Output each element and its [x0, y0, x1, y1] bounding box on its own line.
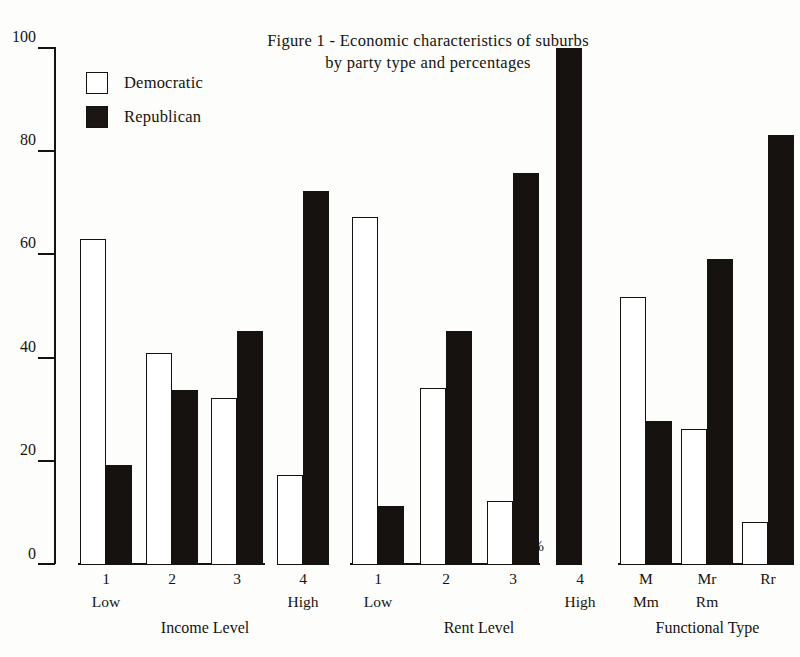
- cat-label-income-2: 2: [152, 570, 192, 588]
- y-tick-label-60: 60: [2, 234, 36, 252]
- bar-functional-m-republican: [646, 421, 672, 565]
- cat-label-functional-m: M: [626, 570, 666, 588]
- bar-rent-3-republican: [513, 173, 539, 565]
- y-tick-60: [38, 253, 55, 255]
- bar-functional-m-democratic: [620, 297, 646, 565]
- bar-income-3-republican: [237, 331, 263, 565]
- bar-rent-3-democratic: [487, 501, 513, 565]
- bar-income-3-democratic: [211, 398, 237, 565]
- cat-label-rent-2: 2: [426, 570, 466, 588]
- bar-income-4-republican: [303, 191, 329, 565]
- bar-income-1-democratic: [80, 239, 106, 565]
- bar-rent-2-democratic: [420, 388, 446, 565]
- bar-rent-2-republican: [446, 331, 472, 565]
- bar-income-2-republican: [172, 390, 198, 565]
- cat-label-functional-rr: Rr: [748, 570, 788, 588]
- y-tick-40: [38, 357, 55, 359]
- y-tick-0: [38, 563, 55, 565]
- cat-sublabel-functional-mm: Mm: [622, 593, 670, 611]
- bar-functional-mr-republican: [707, 259, 733, 565]
- y-axis-line: [54, 47, 56, 564]
- cat-sublabel-rent-high: High: [553, 593, 607, 611]
- y-tick-label-80: 80: [2, 131, 36, 149]
- annotation-zero-percent: 0%: [524, 538, 544, 555]
- cat-label-functional-mr: Mr: [687, 570, 727, 588]
- y-tick-label-100: 100: [2, 28, 36, 46]
- y-tick-100: [38, 47, 55, 49]
- bar-rent-1-republican: [378, 506, 404, 565]
- bar-income-2-democratic: [146, 353, 172, 565]
- bar-rent-4-republican: [556, 48, 582, 565]
- bar-income-1-republican: [106, 465, 132, 565]
- cat-label-rent-4: 4: [560, 570, 600, 588]
- cat-sublabel-income-low: Low: [79, 593, 133, 611]
- group-title-functional: Functional Type: [620, 619, 795, 637]
- bar-income-4-democratic: [277, 475, 303, 565]
- plot-area: 100 80 60 40 20 0: [0, 0, 800, 657]
- cat-label-income-4: 4: [283, 570, 323, 588]
- cat-label-income-3: 3: [217, 570, 257, 588]
- group-title-rent: Rent Level: [409, 619, 549, 637]
- cat-label-rent-1: 1: [358, 570, 398, 588]
- y-tick-label-20: 20: [2, 441, 36, 459]
- y-tick-label-40: 40: [2, 338, 36, 356]
- y-tick-80: [38, 150, 55, 152]
- bar-rent-1-democratic: [352, 217, 378, 565]
- cat-sublabel-rent-low: Low: [351, 593, 405, 611]
- bar-functional-mr-democratic: [681, 429, 707, 565]
- y-tick-label-0: 0: [2, 545, 36, 563]
- chart-page: Figure 1 - Economic characteristics of s…: [0, 0, 800, 657]
- bar-functional-rr-republican: [768, 135, 794, 565]
- cat-sublabel-income-high: High: [276, 593, 330, 611]
- cat-label-income-1: 1: [86, 570, 126, 588]
- group-title-income: Income Level: [131, 619, 279, 637]
- bar-functional-rr-democratic: [742, 522, 768, 565]
- cat-sublabel-functional-rm: Rm: [683, 593, 731, 611]
- y-tick-20: [38, 460, 55, 462]
- cat-label-rent-3: 3: [493, 570, 533, 588]
